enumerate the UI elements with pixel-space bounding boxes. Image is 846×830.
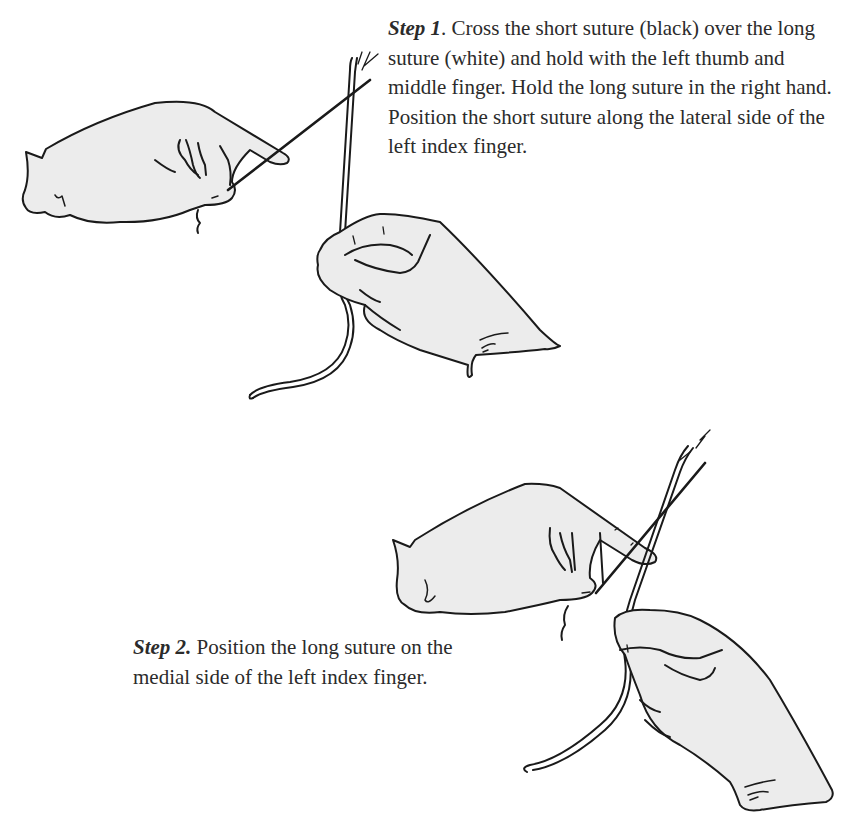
step-1-label: Step 1 [388, 16, 441, 40]
step-2-caption: Step 2. Position the long suture on the … [133, 633, 493, 692]
left-hand-step2 [393, 484, 656, 614]
step-1-text: . Cross the short suture (black) over th… [388, 16, 832, 158]
left-hand-step1 [23, 102, 289, 223]
long-suture-white [250, 58, 352, 395]
step-1-caption: Step 1. Cross the short suture (black) o… [388, 14, 838, 162]
step-2-label: Step 2. [133, 635, 191, 659]
step-2-illustration [393, 430, 833, 810]
right-hand-step2 [614, 610, 832, 811]
